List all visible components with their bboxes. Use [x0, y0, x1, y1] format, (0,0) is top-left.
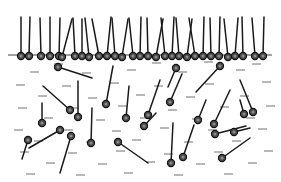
bulk-surfactant-head-core	[219, 65, 222, 68]
bulk-surfactant-head-core	[105, 103, 108, 106]
bulk-surfactant-head-core	[70, 135, 73, 138]
adsorbed-surfactant-tail	[29, 17, 30, 56]
surfactant-interface-diagram	[0, 0, 281, 182]
bulk-surfactant-head-core	[233, 131, 236, 134]
adsorbed-surfactant-head-core	[234, 55, 237, 58]
bulk-surfactant-head-core	[77, 116, 80, 119]
adsorbed-surfactant-head-core	[132, 55, 135, 58]
adsorbed-surfactant-head-core	[106, 55, 109, 58]
adsorbed-surfactant-tail	[203, 17, 204, 56]
adsorbed-surfactant-head-core	[98, 55, 101, 58]
bulk-surfactant-head-core	[57, 66, 60, 69]
adsorbed-surfactant-tail	[140, 17, 141, 56]
adsorbed-surfactant-head-core	[121, 56, 124, 59]
adsorbed-surfactant-head-core	[61, 56, 64, 59]
adsorbed-surfactant-tail	[210, 18, 211, 56]
adsorbed-surfactant-head-core	[164, 55, 167, 58]
adsorbed-surfactant-head-core	[88, 56, 91, 59]
adsorbed-surfactant-head-core	[28, 55, 31, 58]
adsorbed-surfactant-head-core	[147, 55, 150, 58]
bulk-surfactant-head-core	[117, 141, 120, 144]
adsorbed-surfactant-head-core	[254, 55, 257, 58]
bulk-surfactant-head-core	[125, 117, 128, 120]
bulk-surfactant-tail	[91, 108, 92, 143]
bulk-surfactant-head-core	[213, 123, 216, 126]
adsorbed-surfactant-tail	[219, 17, 220, 56]
adsorbed-surfactant-head-core	[242, 55, 245, 58]
bulk-surfactant-head-core	[90, 142, 93, 145]
adsorbed-surfactant-head-core	[262, 55, 265, 58]
bulk-surfactant-head-core	[69, 109, 72, 112]
adsorbed-surfactant-head-core	[74, 55, 77, 58]
bulk-surfactant-head-core	[221, 157, 224, 160]
bulk-surfactant-head-core	[59, 129, 62, 132]
bulk-surfactant-head-core	[243, 113, 246, 116]
adsorbed-surfactant-tail	[59, 18, 60, 56]
adsorbed-surfactant-head-core	[155, 56, 158, 59]
bulk-surfactant-head-core	[175, 67, 178, 70]
adsorbed-surfactant-head-core	[49, 55, 52, 58]
adsorbed-surfactant-tail	[40, 18, 41, 56]
adsorbed-surfactant-head-core	[227, 56, 230, 59]
bulk-surfactant-head-core	[169, 101, 172, 104]
adsorbed-surfactant-head-core	[139, 55, 142, 58]
adsorbed-surfactant-head-core	[186, 56, 189, 59]
adsorbed-surfactant-head-core	[20, 55, 23, 58]
bulk-surfactant-head-core	[197, 119, 200, 122]
adsorbed-surfactant-tail	[263, 17, 264, 56]
bulk-surfactant-head-core	[41, 122, 44, 125]
bulk-surfactant-head-core	[182, 156, 185, 159]
bulk-surfactant-head-core	[147, 114, 150, 117]
adsorbed-surfactant-head-core	[202, 55, 205, 58]
adsorbed-surfactant-tail	[147, 18, 148, 56]
adsorbed-surfactant-head-core	[171, 55, 174, 58]
bulk-surfactant-head-core	[252, 111, 255, 114]
bulk-surfactant-head-core	[27, 139, 30, 142]
bulk-surfactant-head-core	[214, 133, 217, 136]
adsorbed-surfactant-head-core	[114, 55, 117, 58]
bulk-surfactant-head-core	[143, 125, 146, 128]
adsorbed-surfactant-head-core	[81, 55, 84, 58]
bulk-surfactant-head-core	[170, 162, 173, 165]
adsorbed-surfactant-head-core	[194, 55, 197, 58]
adsorbed-surfactant-head-core	[218, 55, 221, 58]
adsorbed-surfactant-head-core	[210, 55, 213, 58]
figure-canvas	[0, 0, 281, 182]
adsorbed-surfactant-head-core	[40, 55, 43, 58]
adsorbed-surfactant-head-core	[178, 55, 181, 58]
adsorbed-surfactant-tail	[242, 17, 243, 56]
